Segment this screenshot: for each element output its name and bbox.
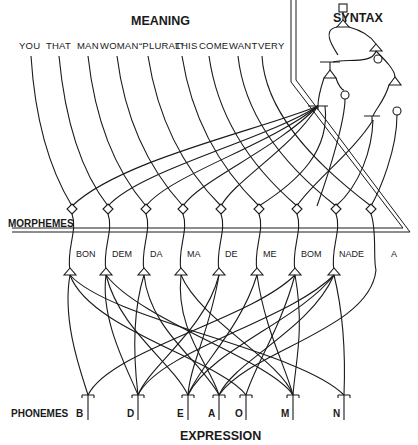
syntax-network [308,4,401,206]
morpheme-me: ME [263,249,277,259]
meaning-word-want: WANT [229,40,257,51]
meaning-title: MEANING [131,14,190,28]
expression-title: EXPRESSION [180,429,261,443]
phoneme-connections [68,270,376,395]
phoneme-d: D [127,408,134,419]
morpheme-dem: DEM [112,249,132,259]
phoneme-nodes [82,395,350,420]
meaning-word-woman: WOMAN [100,40,138,51]
phonemes-title: PHONEMES [11,408,68,419]
morpheme-de: DE [225,249,238,259]
syntax-title: SYNTAX [333,11,383,25]
meaning-connections [31,56,373,206]
phoneme-e: E [177,408,184,419]
morpheme-triangles [64,268,340,275]
meaning-word-man: MAN [77,40,99,51]
phoneme-o: O [235,408,243,419]
morphemes-title: MORPHEMES [8,218,74,229]
morpheme-diamonds [67,204,376,214]
meaning-word-very: VERY [258,40,285,51]
meaning-word-that: THAT [46,40,71,51]
meaning-word-you: YOU [19,40,40,51]
phoneme-b: B [76,408,83,419]
morpheme-da: DA [150,249,163,259]
morpheme-ma: MA [187,249,201,259]
stratum-boundary [12,0,410,232]
meaning-word-this: THIS [175,40,197,51]
morpheme-stems [69,214,376,270]
phoneme-n: N [333,408,340,419]
phoneme-a: A [208,408,215,419]
phoneme-m: M [281,408,289,419]
morpheme-bon: BON [76,249,96,259]
morpheme-nade: NADE [339,249,364,259]
morpheme-bom: BOM [301,249,322,259]
meaning-word-come: COME [199,40,228,51]
morpheme-a: A [391,249,397,259]
